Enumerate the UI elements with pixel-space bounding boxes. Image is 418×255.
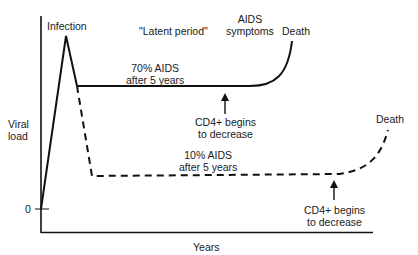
pct70-label: 70% AIDSafter 5 years [126,62,184,86]
x-axis-label: Years [193,241,219,253]
infection-label: Infection [47,20,87,32]
pct70-line2: after 5 years [126,74,184,86]
cd4-bot-line1: CD4+ begins [304,204,365,216]
cd4-bottom-label: CD4+ beginsto decrease [304,204,365,228]
death-bottom-label: Death [376,113,404,125]
cd4-bot-line2: to decrease [307,216,362,228]
ylabel-line2: load [8,130,28,142]
ylabel-line1: Viral [8,118,29,130]
aids-symptoms-label: AIDSsymptoms [226,13,274,37]
solid-curve-latent [77,41,292,86]
aids-line2: symptoms [226,25,274,37]
arrow-bottom-head [330,180,338,188]
pct10-line2: after 5 years [179,161,237,173]
pct70-line1: 70% AIDS [131,62,179,74]
arrow-top-head [221,93,229,101]
y-axis-label: Viralload [8,118,29,142]
pct10-line1: 10% AIDS [184,149,232,161]
pct10-label: 10% AIDSafter 5 years [179,149,237,173]
solid-curve [41,36,77,209]
death-top-label: Death [282,25,310,37]
cd4-top-line2: to decrease [198,128,253,140]
aids-line1: AIDS [238,13,263,25]
cd4-top-label: CD4+ beginsto decrease [195,116,256,140]
latent-period-label: "Latent period" [139,25,208,37]
zero-tick-label: 0 [25,203,31,215]
cd4-top-line1: CD4+ begins [195,116,256,128]
